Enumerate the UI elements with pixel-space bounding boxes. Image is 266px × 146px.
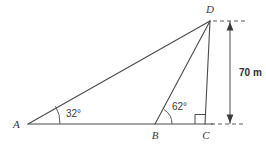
vertex-label-b: B xyxy=(152,129,159,141)
dimension-arrow-bottom-icon xyxy=(227,115,234,124)
angle-label-a: 32° xyxy=(66,108,81,119)
right-angle-marker-c xyxy=(195,115,205,125)
segment-dc xyxy=(205,21,210,124)
vertex-label-d: D xyxy=(205,3,214,15)
dimension-arrow-top-icon xyxy=(227,22,234,31)
angle-arc-a xyxy=(56,106,61,124)
vertex-label-a: A xyxy=(12,118,20,130)
dimension-label-height: 70 m xyxy=(239,67,262,78)
geometry-diagram: A B C D 32° 62° 70 m xyxy=(0,0,266,146)
vertex-label-c: C xyxy=(202,129,210,141)
diagram-canvas: A B C D 32° 62° 70 m xyxy=(0,0,266,146)
angle-arc-b xyxy=(164,110,172,124)
angle-label-b: 62° xyxy=(172,101,187,112)
